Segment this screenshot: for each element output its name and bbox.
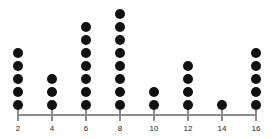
data-dot: [13, 61, 23, 71]
data-dot: [251, 87, 261, 97]
x-axis-tick-label-2: 2: [6, 124, 30, 133]
data-dot: [115, 74, 125, 84]
data-dot: [149, 100, 159, 110]
data-dot: [251, 61, 261, 71]
data-dot: [115, 48, 125, 58]
x-axis-tick-label-6: 6: [74, 124, 98, 133]
x-axis-tick-label-16: 16: [244, 124, 268, 133]
data-dot: [115, 87, 125, 97]
data-dot: [47, 74, 57, 84]
data-dot: [81, 35, 91, 45]
data-dot: [81, 100, 91, 110]
data-dot: [115, 22, 125, 32]
dot-plot-chart: 246810121416: [0, 0, 275, 139]
x-axis-tick-label-8: 8: [108, 124, 132, 133]
data-dot: [13, 48, 23, 58]
x-axis-tick-label-4: 4: [40, 124, 64, 133]
data-dot: [13, 100, 23, 110]
data-dot: [81, 87, 91, 97]
data-dot: [251, 100, 261, 110]
data-dot: [13, 87, 23, 97]
x-axis-tick-label-14: 14: [210, 124, 234, 133]
data-dot: [149, 87, 159, 97]
data-dot: [217, 100, 227, 110]
x-axis-tick-label-12: 12: [176, 124, 200, 133]
data-dot: [251, 74, 261, 84]
data-dot: [81, 61, 91, 71]
data-dot: [183, 87, 193, 97]
data-dot: [115, 100, 125, 110]
data-dot: [115, 61, 125, 71]
data-dot: [47, 100, 57, 110]
data-dot: [251, 48, 261, 58]
data-dot: [115, 35, 125, 45]
data-dot: [183, 74, 193, 84]
data-dot: [115, 9, 125, 19]
data-dot: [183, 100, 193, 110]
x-axis-tick-label-10: 10: [142, 124, 166, 133]
data-dot: [81, 48, 91, 58]
data-dot: [47, 87, 57, 97]
data-dot: [13, 74, 23, 84]
data-dot: [81, 74, 91, 84]
data-dot: [81, 22, 91, 32]
data-dot: [183, 61, 193, 71]
